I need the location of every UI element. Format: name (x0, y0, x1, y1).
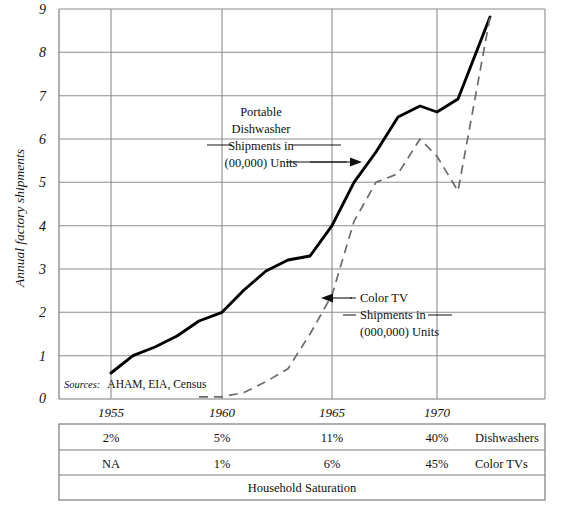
y-tick-7: 7 (39, 89, 47, 104)
y-tick-1: 1 (39, 349, 46, 364)
colortv-arrowhead (321, 294, 333, 303)
colortv-annotation: Color TV Shipments in (000,000) Units (321, 291, 452, 339)
colortv-line (199, 17, 490, 397)
cell-colortvs-1960: 1% (214, 457, 231, 471)
x-tick-1965: 1965 (319, 405, 346, 420)
source-note-label: Sources: (64, 379, 100, 390)
y-axis-ticks: 9 8 7 6 5 4 3 2 1 0 (38, 2, 47, 406)
x-axis-ticks: 1955 1960 1965 1970 (98, 405, 451, 420)
colortv-annotation-line-2: (000,000) Units (360, 325, 439, 339)
colortv-annotation-line-1: Shipments in (360, 308, 426, 322)
y-axis-label: Annual factory shipments (12, 149, 27, 288)
table-row: 2% 5% 11% 40% Dishwashers (103, 431, 539, 445)
saturation-table: 2% 5% 11% 40% Dishwashers NA 1% 6% 45% C… (59, 424, 545, 500)
chart-svg: 9 8 7 6 5 4 3 2 1 0 Annual factory shipm… (0, 0, 563, 516)
chart-figure: 9 8 7 6 5 4 3 2 1 0 Annual factory shipm… (0, 0, 563, 516)
series-color-tv (199, 17, 490, 397)
x-tick-1960: 1960 (209, 405, 236, 420)
cell-dishwashers-1955: 2% (103, 431, 120, 445)
dishwasher-annotation-line-0: Portable (240, 105, 282, 119)
series-portable-dishwasher (111, 17, 490, 373)
cell-dishwashers-1970: 40% (426, 431, 449, 445)
plot-grid (59, 9, 545, 399)
y-tick-2: 2 (39, 305, 46, 320)
dishwasher-arrowhead (350, 158, 362, 167)
dishwasher-annotation-line-1: Dishwasher (231, 122, 291, 136)
table-footer-label: Household Saturation (248, 481, 357, 495)
dishwasher-annotation-line-3: (00,000) Units (225, 156, 298, 170)
y-tick-0: 0 (39, 391, 46, 406)
row-label-dishwashers: Dishwashers (475, 431, 539, 445)
dishwasher-line (111, 17, 490, 373)
table-row: NA 1% 6% 45% Color TVs (102, 457, 528, 471)
cell-colortvs-1970: 45% (426, 457, 449, 471)
y-tick-8: 8 (39, 45, 46, 60)
y-tick-6: 6 (39, 132, 46, 147)
y-tick-4: 4 (39, 219, 46, 234)
source-note: Sources: AHAM, EIA, Census (64, 374, 207, 391)
source-note-value: AHAM, EIA, Census (107, 378, 207, 391)
row-label-colortvs: Color TVs (475, 457, 528, 471)
cell-dishwashers-1960: 5% (214, 431, 231, 445)
source-note-text: Sources: AHAM, EIA, Census (64, 374, 207, 391)
cell-colortvs-1965: 6% (324, 457, 341, 471)
cell-colortvs-1955: NA (102, 457, 120, 471)
x-tick-1955: 1955 (98, 405, 125, 420)
y-tick-5: 5 (39, 175, 46, 190)
y-tick-9: 9 (39, 2, 46, 17)
dishwasher-annotation: Portable Dishwasher Shipments in (00,000… (207, 105, 362, 170)
y-tick-3: 3 (38, 262, 46, 277)
x-tick-1970: 1970 (424, 405, 451, 420)
y-axis-label-text: Annual factory shipments (12, 149, 27, 288)
dishwasher-annotation-line-2: Shipments in (228, 139, 294, 153)
cell-dishwashers-1965: 11% (321, 431, 343, 445)
colortv-annotation-line-0: Color TV (360, 291, 408, 305)
